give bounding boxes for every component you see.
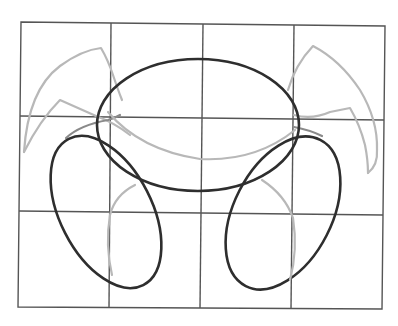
left-inner-leg-arc [108,185,135,275]
right-claw-arc [288,46,377,173]
right-inner-leg-arc [262,180,295,280]
grid [18,22,385,309]
central-oval [97,59,299,191]
sketch-canvas [0,0,398,326]
